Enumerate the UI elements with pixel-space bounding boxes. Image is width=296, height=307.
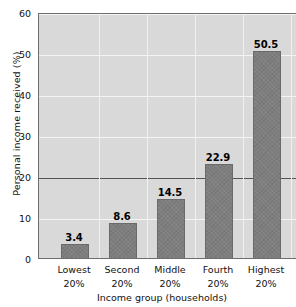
y-axis-ticks: 0 10 20 30 40 50 60	[0, 0, 36, 307]
x-axis-category-line2: 20%	[248, 277, 284, 291]
y-tick-label: 10	[3, 213, 31, 224]
gridline-vertical	[147, 14, 148, 258]
bar-chart: Personal income received (%) 0 10 20 30 …	[0, 0, 296, 307]
x-axis-category-label: Second20%	[105, 263, 140, 290]
gridline-vertical	[243, 14, 244, 258]
x-axis-title: Income group (households)	[0, 292, 296, 303]
bar	[205, 164, 233, 258]
y-tick-label: 40	[3, 90, 31, 101]
bar-value-label: 50.5	[254, 39, 278, 50]
x-axis-category-line1: Highest	[248, 264, 284, 275]
bar-value-label: 3.4	[65, 232, 82, 243]
bar	[157, 199, 185, 258]
bar	[61, 244, 89, 258]
bar	[253, 51, 281, 258]
y-tick-label: 50	[3, 49, 31, 60]
bar-value-label: 14.5	[158, 187, 182, 198]
x-axis-category-label: Middle20%	[154, 263, 185, 290]
bar	[109, 223, 137, 258]
plot-inner	[39, 14, 296, 258]
gridline-horizontal	[39, 14, 296, 15]
x-axis-category-line2: 20%	[203, 277, 234, 291]
bar-value-label: 22.9	[206, 152, 230, 163]
gridline-vertical	[291, 14, 292, 258]
x-axis-category-label: Highest20%	[248, 263, 284, 290]
x-axis-category-line1: Lowest	[57, 264, 90, 275]
y-tick-label: 30	[3, 131, 31, 142]
x-axis-category-line2: 20%	[57, 277, 90, 291]
x-axis-category-label: Fourth20%	[203, 263, 234, 290]
x-axis-category-line1: Second	[105, 264, 140, 275]
y-tick-label: 60	[3, 8, 31, 19]
bar-value-label: 8.6	[113, 211, 130, 222]
x-axis-category-line1: Fourth	[203, 264, 234, 275]
x-axis-category-line2: 20%	[105, 277, 140, 291]
x-axis-category-line1: Middle	[154, 264, 185, 275]
x-axis-category-line2: 20%	[154, 277, 185, 291]
x-axis-category-label: Lowest20%	[57, 263, 90, 290]
gridline-vertical	[195, 14, 196, 258]
x-axis-title-text: Income group (households)	[97, 292, 227, 303]
y-tick-label: 20	[3, 172, 31, 183]
gridline-vertical	[99, 14, 100, 258]
